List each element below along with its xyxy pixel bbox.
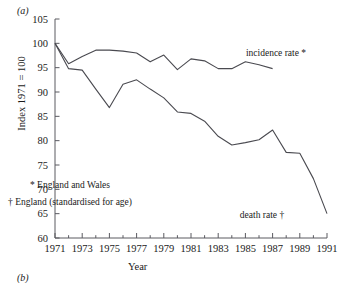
x-tick-label: 1981: [181, 243, 202, 254]
x-tick-label: 1989: [289, 243, 310, 254]
x-tick-label: 1977: [126, 243, 147, 254]
x-tick-label: 1991: [317, 243, 338, 254]
y-tick-label: 100: [32, 38, 48, 49]
y-tick-label: 80: [38, 135, 49, 146]
y-tick-label: 85: [38, 111, 49, 122]
death-series-label: death rate †: [240, 210, 285, 220]
x-tick-label: 1973: [72, 243, 93, 254]
y-tick-label: 95: [38, 62, 49, 73]
footnote-dagger: † England (standardised for age): [8, 197, 132, 208]
annotation-group: incidence rate *death rate †* England an…: [8, 48, 306, 220]
x-tick-label: 1975: [99, 243, 120, 254]
x-tick-label: 1987: [262, 243, 283, 254]
x-tick-label: 1979: [153, 243, 174, 254]
y-tick-label: 105: [32, 14, 48, 25]
y-tick-label: 65: [38, 208, 49, 219]
y-tick-label: 90: [38, 87, 49, 98]
x-tick-group: 1971197319751977197919811983198519871989…: [45, 233, 338, 254]
series-line: [55, 43, 273, 69]
incidence-series-label: incidence rate *: [246, 48, 306, 58]
x-tick-label: 1971: [45, 243, 66, 254]
y-tick-label: 75: [38, 160, 49, 171]
footnote-star: * England and Wales: [30, 180, 110, 190]
x-tick-label: 1985: [235, 243, 256, 254]
x-tick-label: 1983: [208, 243, 229, 254]
